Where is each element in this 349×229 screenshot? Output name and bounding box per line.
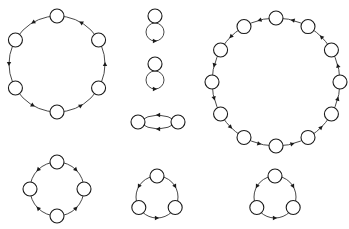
cycle-6-node-4 [50,105,64,119]
cycle-12-node-10 [205,75,219,89]
arrowhead-icon [335,97,339,102]
cycle-12-node-2 [301,20,315,34]
cycle-6-node-1 [50,9,64,23]
cycle-3-b-node-3 [250,201,264,215]
cycle-3-a-node-2 [168,201,182,215]
arrowhead-icon [257,141,262,145]
arrowhead-icon [212,96,216,101]
cycle-2-node-2 [171,115,185,129]
cycle-4-node-2 [77,182,91,196]
cycle-6-node-5 [8,81,22,95]
arrowhead-icon [336,63,340,68]
arrowhead-icon [291,19,296,23]
self-loop-1-node [148,9,162,23]
nodes [8,9,347,223]
self-loop-1-arc [146,23,164,41]
cycle-6-node-3 [92,81,106,95]
cycle-12-node-12 [237,20,251,34]
arrowhead-icon [153,39,157,43]
cycle-6-node-2 [92,33,106,47]
cycle-3-a-node-3 [132,201,146,215]
cycle-3-a-node-1 [150,169,164,183]
arrowhead-icon [213,63,217,68]
cycle-6-ring [9,16,105,112]
arrowhead-icon [156,113,160,117]
arrowhead-icon [7,62,11,66]
self-loop-2-arc [146,71,164,89]
cycle-12-node-8 [237,130,251,144]
arrowhead-icon [153,87,157,91]
cycle-6-node-6 [8,33,22,47]
self-loop-2-node [148,57,162,71]
cycle-2-node-1 [131,115,145,129]
cycle-12-node-4 [333,75,347,89]
cycle-4-node-1 [50,155,64,169]
cycle-3-b-node-2 [286,201,300,215]
arrowhead-icon [257,18,262,22]
cycle-12-node-9 [214,107,228,121]
cycle-12-node-11 [214,43,228,57]
cycle-12-node-7 [269,139,283,153]
cycle-12-node-3 [324,43,338,57]
cycle-4-node-4 [23,182,37,196]
cycle-12-node-6 [301,130,315,144]
cycle-3-b-node-1 [268,169,282,183]
arrowhead-icon [290,142,295,146]
cycle-12-node-1 [269,11,283,25]
arrowhead-icon [273,216,277,220]
cycle-4-node-3 [50,209,64,223]
cycle-12-node-5 [324,107,338,121]
cycle-graphs-diagram [0,0,349,229]
arrowhead-icon [103,62,107,66]
arrowhead-icon [155,216,159,220]
arrowhead-icon [156,127,160,131]
